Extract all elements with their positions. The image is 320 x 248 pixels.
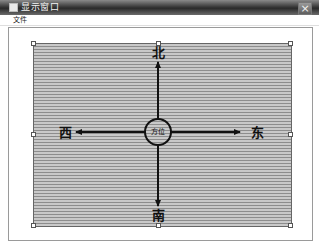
label-west: 西 xyxy=(57,126,73,139)
label-north: 北 xyxy=(150,46,166,59)
label-east: 东 xyxy=(249,126,265,139)
label-south: 南 xyxy=(150,209,166,222)
center-label: 方位 xyxy=(146,127,170,137)
